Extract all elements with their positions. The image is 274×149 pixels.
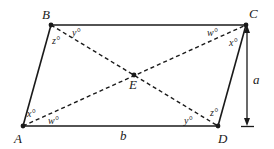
vertex-label-D: D: [217, 131, 228, 146]
base-label-b: b: [120, 128, 127, 143]
vertex-dot-A: [21, 124, 26, 129]
vertex-dot-D: [216, 124, 221, 129]
angle-label-A-w: w°: [48, 115, 59, 126]
vertex-label-A: A: [13, 131, 22, 146]
height-label-a: a: [253, 72, 260, 87]
vertex-dot-C: [244, 23, 249, 28]
angle-label-C-x: x°: [228, 37, 237, 48]
vertex-label-B: B: [42, 7, 50, 22]
angle-label-A-x: x°: [26, 108, 35, 119]
parallelogram-diagram: B C A D E z° y° w° x° x° w° y° z° b a: [0, 0, 274, 149]
angle-label-B-y: y°: [71, 27, 80, 38]
vertex-label-E: E: [128, 77, 137, 92]
angle-label-D-y: y°: [183, 115, 192, 126]
vertex-label-C: C: [249, 6, 258, 21]
angle-label-C-w: w°: [207, 27, 218, 38]
angle-label-D-z: z°: [209, 107, 218, 118]
vertex-dot-B: [49, 23, 54, 28]
angle-label-B-z: z°: [51, 35, 60, 46]
height-arrowhead-bottom: [244, 118, 250, 126]
